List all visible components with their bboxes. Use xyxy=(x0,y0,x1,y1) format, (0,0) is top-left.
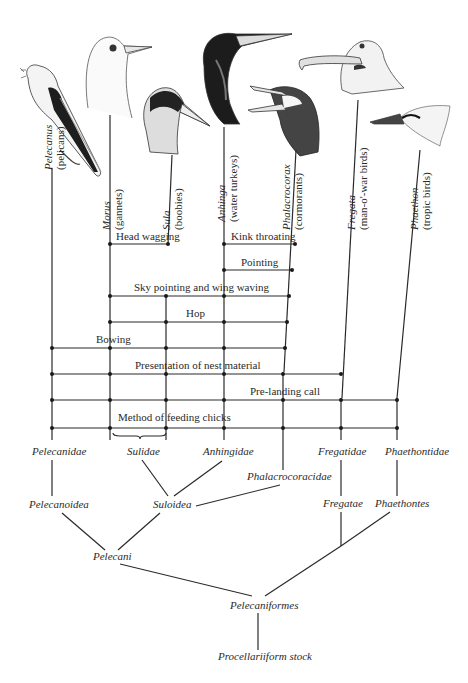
tropicbird-head-icon xyxy=(370,106,450,147)
family-phaethontidae: Phaethontidae xyxy=(384,445,449,457)
bar-pointing-node-1 xyxy=(290,268,294,272)
character-head-wagging: Head wagging xyxy=(116,230,180,242)
bar-method-of-feeding-chicks-node-0 xyxy=(50,426,54,430)
taxon-common-sula: (boobies) xyxy=(172,188,185,230)
lineage-fregata-upper xyxy=(342,100,358,398)
bar-hop-node-3 xyxy=(285,320,289,324)
booby-head-icon xyxy=(144,88,210,154)
branch-fregatae-phaethontes-pelecaniformes xyxy=(265,546,341,596)
family-fregatidae: Fregatidae xyxy=(317,445,367,457)
gannet-head-icon xyxy=(86,37,152,118)
taxon-common-phaethon: (tropic birds) xyxy=(420,172,433,230)
lineage-phaethon-upper xyxy=(397,150,420,398)
character-method-of-feeding-chicks: Method of feeding chicks xyxy=(118,411,231,423)
bar-kink-throating-node-0 xyxy=(222,242,226,246)
bar-pre-landing-call-node-4 xyxy=(281,398,285,402)
bar-hop-node-2 xyxy=(222,320,226,324)
family-sulidae: Sulidae xyxy=(127,445,160,457)
bar-pre-landing-call-node-2 xyxy=(164,398,168,402)
bar-pre-landing-call-node-5 xyxy=(339,398,343,402)
family-phalacrocoracidae: Phalacrocoracidae xyxy=(246,470,332,482)
cormorant-head-icon xyxy=(248,86,319,156)
character-hop: Hop xyxy=(186,307,205,319)
character-pointing: Pointing xyxy=(241,256,279,268)
bar-method-of-feeding-chicks-node-6 xyxy=(395,426,399,430)
bar-method-of-feeding-chicks-node-5 xyxy=(339,426,343,430)
bar-sky-pointing-wing-waving-node-2 xyxy=(222,294,226,298)
bar-kink-throating-node-1 xyxy=(293,242,297,246)
branch-pelecanoidea-pelecani xyxy=(62,513,105,550)
bar-method-of-feeding-chicks-node-3 xyxy=(222,426,226,430)
branch-suloidea-pelecani xyxy=(118,513,160,550)
superfamily-pelecanoidea: Pelecanoidea xyxy=(28,498,89,510)
bar-pointing-node-0 xyxy=(222,268,226,272)
bar-sky-pointing-wing-waving-node-3 xyxy=(287,294,291,298)
bar-presentation-of-nest-material-node-1 xyxy=(108,372,112,376)
bar-hop-node-1 xyxy=(164,320,168,324)
root-procellariiform-stock: Procellariiform stock xyxy=(217,650,313,662)
taxon-genus-sula: Sula xyxy=(160,210,172,230)
bar-method-of-feeding-chicks-node-1 xyxy=(108,426,112,430)
taxon-common-anhinga: (water turkeys) xyxy=(227,155,240,222)
bar-bowing-node-4 xyxy=(283,346,287,350)
taxon-genus-anhinga: Anhinga xyxy=(215,184,227,223)
superfamily-fregatae: Fregatae xyxy=(322,497,363,509)
taxon-common-morus: (gannets) xyxy=(112,189,125,230)
branch-anhingidae-suloidea xyxy=(174,461,222,496)
suborder-pelecani: Pelecani xyxy=(92,550,131,562)
bar-head-wagging-node-1 xyxy=(166,242,170,246)
family-anhingidae: Anhingidae xyxy=(202,445,254,457)
bar-pre-landing-call-node-3 xyxy=(222,398,226,402)
branch-sulidae-suloidea xyxy=(142,460,168,496)
superfamily-phaethontes: Phaethontes xyxy=(374,497,429,509)
phylogeny-diagram: Pelecanus(pelicans)Morus(gannets)Sula(bo… xyxy=(0,0,468,683)
bar-presentation-of-nest-material-node-2 xyxy=(164,372,168,376)
bar-sky-pointing-wing-waving-node-0 xyxy=(108,294,112,298)
family-pelecanidae: Pelecanidae xyxy=(31,445,86,457)
bar-hop-node-0 xyxy=(108,320,112,324)
taxon-genus-pelecanus: Pelecanus xyxy=(42,125,54,171)
character-presentation-of-nest-material: Presentation of nest material xyxy=(135,359,261,371)
frigatebird-head-icon xyxy=(299,41,404,94)
branch-phalacrocoracidae-suloidea xyxy=(196,485,280,506)
bar-head-wagging-node-0 xyxy=(108,242,112,246)
taxon-common-pelecanus: (pelicans) xyxy=(54,126,67,170)
character-bowing: Bowing xyxy=(96,333,131,345)
bar-presentation-of-nest-material-node-3 xyxy=(222,372,226,376)
bar-pre-landing-call-node-1 xyxy=(108,398,112,402)
character-sky-pointing-wing-waving: Sky pointing and wing waving xyxy=(134,281,270,293)
bar-bowing-node-0 xyxy=(50,346,54,350)
bar-presentation-of-nest-material-node-4 xyxy=(281,372,285,376)
branch-phaethontes-join xyxy=(341,512,390,546)
order-pelecaniformes: Pelecaniformes xyxy=(229,599,298,611)
character-pre-landing-call: Pre-landing call xyxy=(250,385,320,397)
bar-pre-landing-call-node-6 xyxy=(395,398,399,402)
character-kink-throating: Kink throating xyxy=(231,230,296,242)
bar-bowing-node-1 xyxy=(108,346,112,350)
bar-presentation-of-nest-material-node-0 xyxy=(50,372,54,376)
bar-bowing-node-3 xyxy=(222,346,226,350)
taxon-common-fregata: (man-o'-war birds) xyxy=(357,147,370,230)
bar-bowing-node-2 xyxy=(164,346,168,350)
taxon-genus-phalacrocorax: Phalacrocorax xyxy=(280,164,292,231)
bar-presentation-of-nest-material-node-5 xyxy=(339,372,343,376)
sulidae-bracket xyxy=(113,433,166,439)
bar-method-of-feeding-chicks-node-2 xyxy=(164,426,168,430)
superfamily-suloidea: Suloidea xyxy=(153,498,192,510)
bar-sky-pointing-wing-waving-node-1 xyxy=(164,294,168,298)
branch-pelecani-pelecaniformes xyxy=(120,564,252,596)
bar-pre-landing-call-node-0 xyxy=(50,398,54,402)
bar-method-of-feeding-chicks-node-4 xyxy=(281,426,285,430)
